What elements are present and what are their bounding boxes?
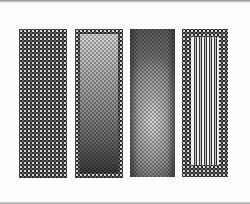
checker-texture [80,34,118,173]
scan-edge-bottom [0,201,250,204]
vertical-stripes [191,37,219,165]
texture-panel-gradient-framed [75,29,123,178]
texture-panel-radial-gradient [130,29,175,177]
texture-panel-dotted [19,29,67,178]
gradient-fill [80,34,118,173]
checker-texture [130,29,175,177]
texture-panel-striped-framed [182,29,228,177]
scan-edge-top [0,0,250,3]
